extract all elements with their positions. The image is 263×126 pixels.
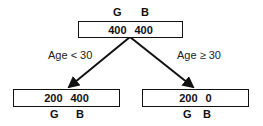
edge-left [69, 37, 130, 87]
root-value-b: 400 [135, 24, 153, 36]
root-node: 400 400 [78, 21, 183, 38]
right-label-b: B [203, 108, 211, 120]
root-label-g: G [113, 6, 122, 18]
right-node: 200 0 [142, 89, 249, 107]
edge-right [130, 37, 193, 87]
root-value-g: 400 [108, 24, 126, 36]
condition-right: Age ≥ 30 [177, 49, 221, 61]
condition-left: Age < 30 [48, 49, 92, 61]
tree-edges [0, 0, 263, 126]
left-label-g: G [50, 108, 59, 120]
right-value-b: 0 [206, 92, 212, 104]
left-label-b: B [76, 108, 84, 120]
left-node: 200 400 [13, 89, 120, 107]
root-label-b: B [141, 6, 149, 18]
right-label-g: G [183, 108, 192, 120]
right-value-g: 200 [179, 92, 197, 104]
left-value-g: 200 [44, 92, 62, 104]
left-value-b: 400 [71, 92, 89, 104]
